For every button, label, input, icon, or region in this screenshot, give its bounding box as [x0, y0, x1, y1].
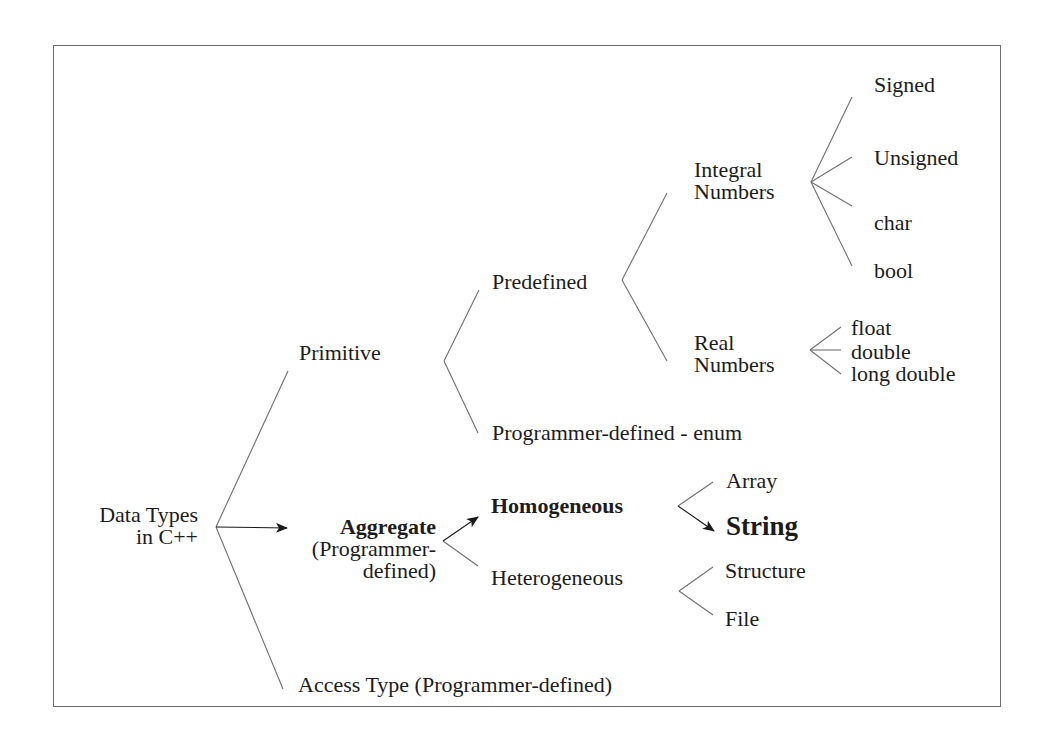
leaf-long-double: long double — [851, 364, 956, 384]
node-homogeneous: Homogeneous — [491, 495, 623, 517]
leaf-string: String — [726, 513, 798, 540]
edge-real-float — [810, 327, 841, 350]
arrow-homogeneous-string — [678, 506, 714, 531]
node-real-numbers: Real Numbers — [694, 332, 775, 376]
node-root-line2: in C++ — [60, 526, 198, 548]
node-aggregate: Aggregate (Programmer- defined) — [262, 516, 436, 582]
edge-predefined-integral — [622, 193, 667, 280]
leaf-double: double — [851, 342, 911, 362]
node-integral-line1: Integral — [694, 159, 775, 181]
node-real-line1: Real — [694, 332, 775, 354]
node-programmer-defined-enum: Programmer-defined - enum — [492, 422, 742, 444]
edge-real-longdouble — [810, 350, 841, 374]
leaf-array: Array — [726, 470, 777, 492]
leaf-structure: Structure — [725, 560, 806, 582]
edge-heterogeneous-structure — [679, 567, 713, 591]
node-root-line1: Data Types — [60, 504, 198, 526]
leaf-file: File — [725, 608, 759, 630]
leaf-unsigned: Unsigned — [874, 147, 958, 169]
leaf-bool: bool — [874, 260, 913, 282]
node-integral-line2: Numbers — [694, 181, 775, 203]
edge-aggregate-heterogeneous — [443, 541, 478, 566]
node-integral-numbers: Integral Numbers — [694, 159, 775, 203]
node-aggregate-sub2: defined) — [262, 560, 436, 582]
node-real-line2: Numbers — [694, 354, 775, 376]
edge-primitive-predefined — [444, 290, 479, 361]
arrow-aggregate-homogeneous — [443, 517, 478, 541]
edge-root-primitive — [216, 371, 288, 527]
node-aggregate-sub1: (Programmer- — [262, 538, 436, 560]
edge-homogeneous-array — [678, 482, 713, 506]
edge-primitive-enum — [444, 361, 478, 433]
node-aggregate-title: Aggregate — [262, 516, 436, 538]
edge-predefined-real — [622, 280, 667, 361]
leaf-signed: Signed — [874, 74, 935, 96]
node-root: Data Types in C++ — [60, 504, 198, 548]
node-predefined: Predefined — [492, 271, 587, 293]
node-access-type: Access Type (Programmer-defined) — [298, 674, 612, 696]
leaf-char: char — [874, 212, 912, 234]
node-primitive: Primitive — [299, 342, 381, 364]
edge-heterogeneous-file — [679, 591, 713, 615]
leaf-float: float — [851, 318, 891, 338]
node-heterogeneous: Heterogeneous — [491, 567, 623, 589]
